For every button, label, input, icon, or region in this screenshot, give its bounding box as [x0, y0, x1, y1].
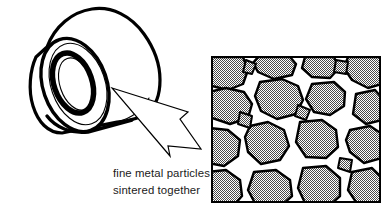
- particle: [306, 82, 345, 115]
- particle: [348, 168, 382, 205]
- caption-line-2: sintered together: [113, 184, 200, 196]
- particle: [334, 60, 348, 74]
- micrograph-box: [202, 57, 382, 205]
- particle: [238, 112, 252, 128]
- particle: [209, 57, 248, 90]
- caption-line-1: fine metal particles: [113, 167, 210, 179]
- sintered-bushing-figure: fine metal particles sintered together: [0, 0, 391, 217]
- figure-canvas: fine metal particles sintered together: [0, 0, 391, 217]
- caption-block: fine metal particles sintered together: [113, 167, 210, 196]
- particle: [296, 120, 338, 158]
- particle: [298, 166, 340, 205]
- particle: [248, 170, 292, 205]
